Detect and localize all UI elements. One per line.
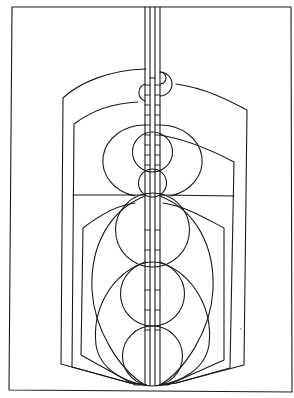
horizontal-divider <box>73 195 234 196</box>
upper-circle-stack <box>103 125 202 197</box>
inner-hexagon-outline <box>81 203 224 385</box>
lower-large-circle-stack <box>92 193 213 386</box>
outer-shield-outline <box>61 69 247 385</box>
line-drawing-artwork <box>0 0 294 398</box>
speck <box>240 328 241 329</box>
